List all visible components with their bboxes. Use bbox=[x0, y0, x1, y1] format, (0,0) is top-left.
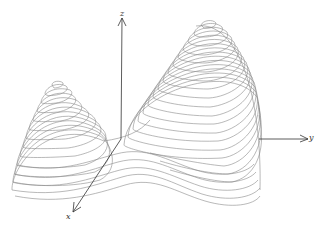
y-axis-arrowhead bbox=[300, 135, 308, 142]
surface-diagram bbox=[0, 0, 324, 229]
surface-contours bbox=[12, 21, 262, 206]
x-axis bbox=[73, 139, 121, 212]
z-axis bbox=[121, 18, 122, 139]
y-axis-label: y bbox=[309, 134, 314, 142]
x-axis-label: x bbox=[66, 213, 71, 221]
z-axis-label: z bbox=[120, 10, 124, 18]
